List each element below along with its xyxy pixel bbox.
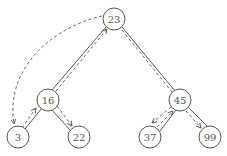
edge-45-37 [160, 110, 176, 131]
traversal-arrow-23-to-45 [122, 30, 172, 92]
node-label: 99 [204, 132, 217, 143]
node-label: 45 [174, 95, 187, 106]
tree-node-3: 3 [7, 126, 29, 148]
traversal-arrow-16-to-23 [56, 29, 107, 91]
tree-node-99: 99 [199, 126, 221, 148]
traversal-arrow-23-to-3 [13, 16, 102, 124]
edge-16-3 [25, 108, 42, 129]
tree-node-45: 45 [169, 89, 191, 111]
tree-diagram: 23 16 45 3 22 37 99 [0, 0, 227, 156]
traversal-arrow-16-to-22 [57, 106, 72, 126]
tree-node-22: 22 [68, 126, 90, 148]
node-label: 16 [42, 95, 55, 106]
tree-node-16: 16 [37, 89, 59, 111]
node-label: 22 [73, 132, 86, 143]
edge-23-16 [52, 27, 106, 90]
node-label: 3 [15, 132, 21, 143]
tree-node-23: 23 [103, 8, 125, 30]
tree-node-37: 37 [139, 126, 161, 148]
node-label: 23 [108, 14, 121, 25]
node-label: 37 [144, 132, 157, 143]
edge-23-45 [122, 27, 175, 91]
traversal-arrow-45-to-99 [186, 111, 201, 128]
